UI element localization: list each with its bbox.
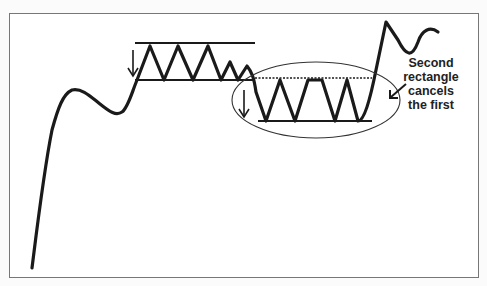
pattern-diagram — [0, 0, 487, 286]
down-arrow-icon — [128, 50, 138, 76]
annotation-label: Second rectangle cancels the first — [386, 56, 476, 112]
down-arrow-icon — [239, 90, 249, 117]
annotation-line: Second — [386, 56, 476, 70]
annotation-line: rectangle — [386, 70, 476, 84]
annotation-line: the first — [386, 98, 476, 112]
price-line — [32, 22, 438, 268]
annotation-line: cancels — [386, 84, 476, 98]
